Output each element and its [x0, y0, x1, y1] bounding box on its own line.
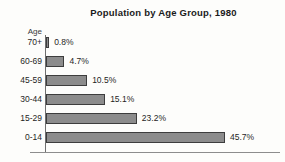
bar-row: 15-2923.2% — [0, 113, 285, 124]
bar[interactable] — [46, 75, 87, 86]
bar[interactable] — [46, 56, 64, 67]
bar-row: 70+0.8% — [0, 37, 285, 48]
bar-value-label: 4.7% — [69, 56, 88, 67]
bar-value-label: 45.7% — [230, 132, 254, 143]
category-label: 30-44 — [0, 94, 42, 105]
bar[interactable] — [46, 132, 225, 143]
bar-value-label: 15.1% — [110, 94, 134, 105]
bar-row: 30-4415.1% — [0, 94, 285, 105]
bar-value-label: 0.8% — [54, 37, 73, 48]
category-label: 0-14 — [0, 132, 42, 143]
bar[interactable] — [46, 113, 137, 124]
category-label: 15-29 — [0, 113, 42, 124]
category-label: 60-69 — [0, 56, 42, 67]
bar-value-label: 10.5% — [92, 75, 116, 86]
bar[interactable] — [46, 94, 105, 105]
bar-row: 0-1445.7% — [0, 132, 285, 143]
plot-area: 70+0.8%60-694.7%45-5910.5%30-4415.1%15-2… — [0, 0, 285, 162]
bar[interactable] — [46, 37, 49, 48]
bar-row: 45-5910.5% — [0, 75, 285, 86]
bar-chart: Population by Age Group, 1980 Age 70+0.8… — [0, 0, 285, 162]
category-label: 45-59 — [0, 75, 42, 86]
category-label: 70+ — [0, 37, 42, 48]
bar-value-label: 23.2% — [142, 113, 166, 124]
bar-row: 60-694.7% — [0, 56, 285, 67]
